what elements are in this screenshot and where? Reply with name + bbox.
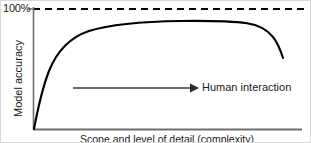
chart-figure: 100% Model accuracy Scope and level of d… [0, 0, 311, 143]
human-interaction-arrow [73, 84, 199, 93]
y-axis-tick-label-100: 100% [3, 3, 30, 14]
accuracy-curve [34, 21, 283, 129]
y-axis-title: Model accuracy [13, 31, 24, 127]
arrow-head-icon [190, 84, 199, 93]
human-interaction-label: Human interaction [202, 82, 291, 93]
x-axis-title: Scope and level of detail (complexity) [33, 134, 301, 143]
plot-area [1, 1, 311, 143]
